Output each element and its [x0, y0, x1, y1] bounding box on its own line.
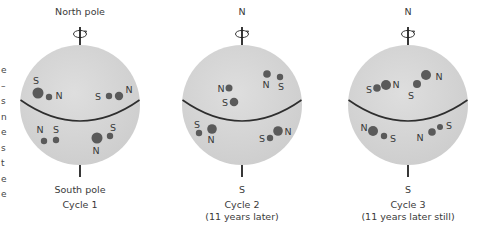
polarity-label: N: [207, 134, 214, 145]
sunspot-cycle-diagram: e–snestee North poleSNSNNSSNSouth poleCy…: [0, 0, 479, 246]
cycle-caption: Cycle 3: [390, 199, 425, 210]
sunspot: [413, 80, 421, 88]
sun-sphere: [348, 45, 468, 165]
sun-spheres-figure: North poleSNSNNSSNSouth poleCycle 1NNSNS…: [0, 0, 479, 246]
north-pole-label: N: [404, 6, 411, 17]
sunspot: [92, 133, 103, 144]
polarity-label: S: [33, 75, 39, 86]
sunspot: [115, 92, 123, 100]
sunspot: [106, 93, 112, 99]
cropped-text-fragment: s: [1, 97, 6, 106]
polarity-label: N: [55, 90, 62, 101]
south-pole-label: South pole: [55, 184, 106, 195]
sunspot: [53, 137, 59, 143]
south-pole-label: S: [239, 184, 245, 195]
sun-panel-cycle-2: NNSNSSNSNSCycle 2(11 years later): [182, 6, 302, 222]
sunspot: [368, 126, 378, 136]
polarity-label: S: [222, 97, 228, 108]
cycle-subcaption: (11 years later still): [361, 211, 454, 222]
cycle-caption: Cycle 1: [62, 199, 97, 210]
polarity-label: S: [259, 133, 265, 144]
cropped-text-fragment: n: [1, 113, 7, 122]
sunspot: [381, 133, 387, 139]
sun-sphere: [20, 45, 140, 165]
polarity-label: N: [92, 145, 99, 156]
polarity-label: S: [366, 84, 372, 95]
sunspot: [267, 135, 273, 141]
sunspot: [46, 94, 52, 100]
sunspot: [373, 84, 381, 92]
polarity-label: N: [392, 79, 399, 90]
sunspot: [421, 70, 431, 80]
cropped-text-fragment: –: [1, 82, 6, 91]
sunspot: [437, 124, 443, 130]
cycle-subcaption: (11 years later): [205, 211, 279, 222]
south-pole-label: S: [405, 184, 411, 195]
polarity-label: S: [390, 133, 396, 144]
polarity-label: N: [284, 126, 291, 137]
sunspot: [381, 80, 391, 90]
cropped-text-fragment: e: [1, 190, 7, 199]
cropped-text-fragment: s: [1, 144, 6, 153]
sunspot: [196, 130, 202, 136]
cycle-caption: Cycle 2: [224, 199, 259, 210]
sunspot: [273, 126, 283, 136]
north-pole-label: N: [238, 6, 245, 17]
polarity-label: N: [435, 71, 442, 82]
sunspot: [277, 74, 283, 80]
polarity-label: S: [194, 119, 200, 130]
cropped-text-fragment: e: [1, 128, 7, 137]
polarity-label: S: [408, 90, 414, 101]
polarity-label: S: [53, 124, 59, 135]
polarity-label: S: [110, 122, 116, 133]
polarity-label: S: [95, 91, 101, 102]
sunspot: [33, 88, 44, 99]
cropped-text-fragment: t: [1, 159, 5, 168]
polarity-label: N: [125, 84, 132, 95]
polarity-label: N: [217, 83, 224, 94]
sunspot: [230, 98, 239, 107]
sunspot: [263, 70, 271, 78]
polarity-label: S: [446, 120, 452, 131]
sun-panel-cycle-3: NSNSNNSNSSCycle 3(11 years later still): [348, 6, 468, 222]
polarity-label: N: [416, 132, 423, 143]
north-pole-label: North pole: [55, 6, 105, 17]
polarity-label: N: [262, 79, 269, 90]
sunspot: [428, 128, 436, 136]
cropped-text-fragment: e: [1, 175, 7, 184]
sunspot: [207, 124, 217, 134]
sun-sphere: [182, 45, 302, 165]
sunspot: [226, 85, 233, 92]
sunspot: [107, 133, 113, 139]
polarity-label: S: [278, 81, 284, 92]
sunspot: [41, 138, 47, 144]
polarity-label: N: [360, 122, 367, 133]
cropped-text-fragment: e: [1, 66, 7, 75]
polarity-label: N: [36, 124, 43, 135]
sun-panel-cycle-1: North poleSNSNNSSNSouth poleCycle 1: [20, 6, 140, 210]
